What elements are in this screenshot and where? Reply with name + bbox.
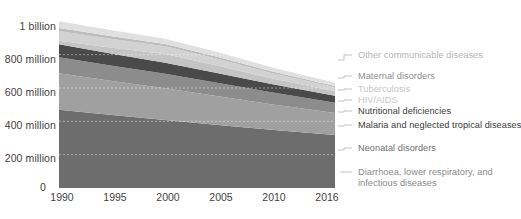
legend-label: HIV/AIDS [358,95,398,105]
area-series-group [59,8,335,188]
y-tick-label: 1 billion [19,20,56,32]
legend-item-other-communicable-diseases[interactable]: Other communicable diseases [358,50,483,61]
legend-label: Tuberculosis [358,84,410,94]
legend-item-diarrhoea-lri-infectious[interactable]: Diarrhoea, lower respiratory, and infect… [358,167,498,188]
legend-label: Maternal disorders [358,71,435,81]
legend-item-neonatal-disorders[interactable]: Neonatal disorders [358,143,436,154]
legend-item-nutritional-deficiencies[interactable]: Nutritional deficiencies [358,106,451,117]
legend-label-line2: infectious diseases [358,178,437,188]
y-tick-label: 600 million [5,86,56,98]
x-tick-label: 2010 [262,191,285,203]
legend-label: Neonatal disorders [358,143,436,153]
x-tick-label: 2000 [156,191,179,203]
legend-label: Malaria and neglected tropical diseases [358,120,521,130]
plot-area [59,8,335,188]
x-tick-label: 1990 [50,191,73,203]
legend: Other communicable diseases Maternal dis… [336,0,518,219]
legend-label: Diarrhoea, lower respiratory, and [358,167,493,177]
legend-label: Other communicable diseases [358,50,483,60]
y-tick-label: 400 million [5,119,56,131]
y-axis: 1 billion 800 million 600 million 400 mi… [0,0,56,219]
legend-item-malaria-ntd[interactable]: Malaria and neglected tropical diseases [358,120,521,131]
x-tick-label: 2005 [209,191,232,203]
legend-label: Nutritional deficiencies [358,106,451,116]
y-tick-label: 800 million [5,53,56,65]
legend-item-hiv-aids[interactable]: HIV/AIDS [358,95,398,106]
legend-item-tuberculosis[interactable]: Tuberculosis [358,84,410,95]
x-tick-label: 1995 [103,191,126,203]
y-tick-label: 200 million [5,152,56,164]
legend-item-maternal-disorders[interactable]: Maternal disorders [358,71,435,82]
